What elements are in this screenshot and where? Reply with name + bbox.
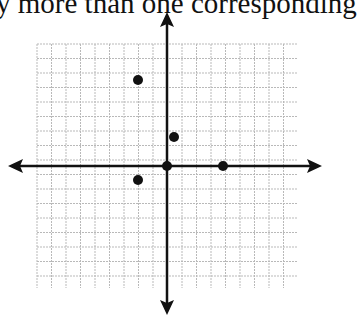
plotted-point [133,175,143,185]
plotted-point [169,132,179,142]
plotted-point [133,75,143,85]
plotted-point [162,161,172,171]
points [133,75,228,185]
plotted-point [218,161,228,171]
